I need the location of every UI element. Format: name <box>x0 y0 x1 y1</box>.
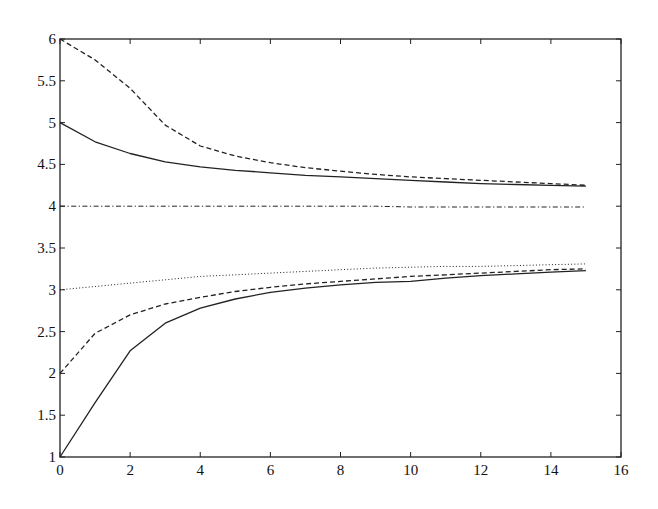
x-axis: 0246810121416 <box>56 39 629 478</box>
y-tick-label: 2 <box>49 365 57 381</box>
x-tick-label: 16 <box>614 462 630 478</box>
x-tick-label: 6 <box>267 462 275 478</box>
y-axis: 11.522.533.544.555.56 <box>37 31 621 465</box>
y-tick-label: 5 <box>49 115 57 131</box>
y-tick-label: 1.5 <box>37 407 56 423</box>
x-tick-label: 2 <box>126 462 134 478</box>
series-upper-dashed <box>60 39 586 185</box>
series-middle-dashdot <box>60 206 586 207</box>
x-tick-label: 12 <box>473 462 488 478</box>
x-tick-label: 0 <box>56 462 64 478</box>
series-layer <box>60 39 586 457</box>
x-tick-label: 10 <box>403 462 418 478</box>
y-tick-label: 1 <box>49 449 57 465</box>
line-chart: 0246810121416 11.522.533.544.555.56 <box>0 0 658 509</box>
y-tick-label: 2.5 <box>37 324 56 340</box>
plot-area-frame <box>60 39 621 457</box>
x-tick-label: 14 <box>543 462 559 478</box>
y-tick-label: 3 <box>49 282 57 298</box>
series-lower-solid <box>60 271 586 457</box>
series-lower-dashed <box>60 269 586 374</box>
x-tick-label: 4 <box>197 462 205 478</box>
y-tick-label: 3.5 <box>37 240 56 256</box>
y-tick-label: 5.5 <box>37 73 56 89</box>
x-tick-label: 8 <box>337 462 345 478</box>
y-tick-label: 6 <box>49 31 57 47</box>
series-upper-solid <box>60 123 586 187</box>
y-tick-label: 4 <box>49 198 57 214</box>
y-tick-label: 4.5 <box>37 156 56 172</box>
